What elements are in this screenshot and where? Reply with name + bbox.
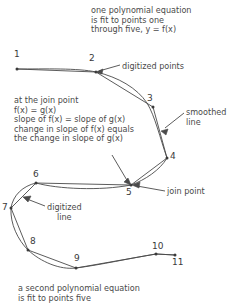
leader-smoothed-line — [165, 113, 184, 128]
point-label-9: 9 — [74, 254, 80, 263]
point-label-1: 1 — [14, 50, 20, 59]
leader-join-point — [137, 186, 165, 191]
point-label-11: 11 — [172, 258, 183, 267]
data-point-4 — [166, 157, 169, 160]
leader-arrowhead-join-conditions — [124, 178, 131, 185]
data-point-9 — [75, 267, 78, 270]
data-point-10 — [155, 253, 158, 256]
data-point-1 — [16, 68, 19, 71]
label-digitized-points: digitized points — [122, 62, 184, 72]
data-point-7 — [10, 207, 13, 210]
note-top-polynomial: one polynomial equation is fit to points… — [91, 6, 191, 35]
point-label-2: 2 — [89, 54, 95, 63]
label-digitized-line: digitized line — [47, 203, 82, 222]
label-join-point: join point — [167, 187, 205, 197]
label-smoothed-line: smoothed line — [186, 108, 226, 127]
figure-canvas: one polynomial equation is fit to points… — [0, 0, 237, 304]
note-join-conditions: at the join point f(x) = g(x) slope of f… — [14, 96, 134, 144]
leader-digitized-line — [27, 199, 45, 206]
leader-arrowhead-digitized-line — [23, 196, 31, 202]
leader-arrowhead-digitized-points — [96, 69, 103, 74]
data-point-3 — [152, 106, 155, 109]
data-point-8 — [27, 249, 30, 252]
point-label-5: 5 — [126, 188, 132, 197]
point-label-3: 3 — [147, 94, 153, 103]
point-label-6: 6 — [33, 170, 39, 179]
data-point-6 — [35, 182, 38, 185]
polynomial-join-diagram — [0, 0, 237, 304]
leader-arrowhead-smoothed-line — [161, 129, 168, 135]
point-label-4: 4 — [170, 152, 176, 161]
leader-join-conditions — [112, 155, 128, 182]
point-label-7: 7 — [2, 203, 8, 212]
note-second-polynomial: a second polynomial equation is fit to p… — [18, 284, 140, 303]
point-label-10: 10 — [152, 242, 163, 251]
point-label-8: 8 — [30, 237, 36, 246]
